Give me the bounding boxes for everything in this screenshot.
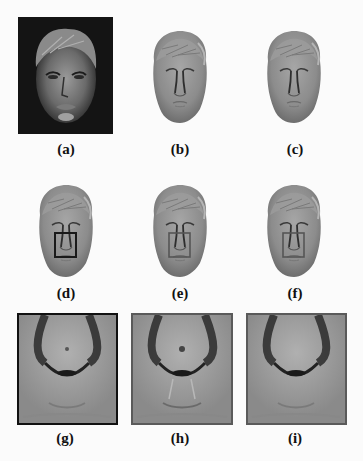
label-g: (g)	[56, 430, 74, 447]
face-mesh	[148, 184, 212, 278]
face-mesh	[262, 27, 326, 127]
nose-closeup	[248, 315, 345, 423]
face-mesh	[34, 184, 98, 278]
nose-closeup	[19, 315, 116, 423]
label-b: (b)	[171, 141, 189, 158]
nose-closeup	[133, 315, 231, 423]
label-c: (c)	[287, 141, 304, 158]
panel-h-closeup	[131, 313, 233, 425]
panel-b-mesh	[148, 27, 212, 127]
label-i: (i)	[288, 430, 302, 447]
label-h: (h)	[171, 430, 189, 447]
panel-e-mesh	[148, 184, 212, 278]
panel-i-closeup	[246, 313, 347, 425]
panel-g-closeup	[17, 313, 118, 425]
face-mesh	[262, 184, 326, 278]
panel-f-mesh	[262, 184, 326, 278]
panel-c-mesh	[262, 27, 326, 127]
label-f: (f)	[288, 285, 303, 302]
label-e: (e)	[172, 285, 189, 302]
panel-a-photo	[18, 17, 113, 134]
label-d: (d)	[57, 285, 75, 302]
panel-d-mesh	[34, 184, 98, 278]
label-a: (a)	[57, 141, 75, 158]
face-mesh	[148, 27, 212, 127]
face-photo	[18, 17, 113, 134]
